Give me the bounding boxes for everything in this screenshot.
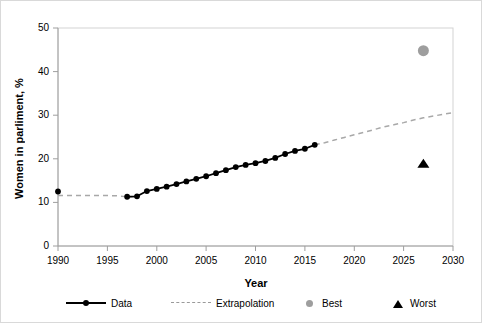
data-point: [124, 194, 130, 200]
legend-label-data: Data: [111, 298, 132, 309]
data-point: [243, 162, 249, 168]
y-tick-label-30: 30: [23, 110, 49, 120]
y-tick-label-0: 0: [23, 241, 49, 251]
data-point: [203, 173, 209, 179]
y-tick-label-40: 40: [23, 67, 49, 77]
x-tick-label-2000: 2000: [137, 256, 177, 266]
data-point: [312, 142, 318, 148]
data-point: [292, 148, 298, 154]
data-point: [272, 155, 278, 161]
data-point: [134, 193, 140, 199]
data-point: [233, 164, 239, 170]
x-tick-label-2010: 2010: [236, 256, 276, 266]
x-axis-ticks: [58, 246, 453, 251]
legend-label-best: Best: [322, 298, 342, 309]
x-tick-label-2005: 2005: [186, 256, 226, 266]
legend-entry-worst: Worst: [391, 292, 436, 314]
black-triangle-icon: [391, 297, 405, 309]
data-point: [55, 189, 61, 195]
best-marker: [418, 45, 429, 56]
x-tick-label-2020: 2020: [334, 256, 374, 266]
x-tick-label-2030: 2030: [433, 256, 473, 266]
data-point: [262, 158, 268, 164]
x-axis-title: Year: [58, 277, 454, 289]
legend-entry-best: Best: [303, 292, 342, 314]
y-axis-ticks: [53, 28, 58, 246]
legend-entry-data: Data: [66, 292, 132, 314]
data-point: [174, 181, 180, 187]
data-point: [164, 184, 170, 190]
x-tick-label-2015: 2015: [285, 256, 325, 266]
chart-legend: Data Extrapolation Best Worst: [58, 292, 454, 314]
data-point: [253, 160, 259, 166]
legend-entry-extrapolation: Extrapolation: [171, 292, 274, 314]
x-tick-label-2025: 2025: [384, 256, 424, 266]
plot-frame: [58, 28, 453, 246]
y-tick-label-20: 20: [23, 154, 49, 164]
data-point: [193, 176, 199, 182]
data-point: [183, 179, 189, 185]
chart-screenshot: Women in parliment, % Year 50 40 30 20 1…: [0, 0, 482, 323]
y-tick-label-10: 10: [23, 197, 49, 207]
data-point: [223, 167, 229, 173]
data-point: [154, 186, 160, 192]
x-tick-label-1990: 1990: [38, 256, 78, 266]
data-point: [213, 170, 219, 176]
data-point: [282, 151, 288, 157]
legend-label-worst: Worst: [410, 298, 436, 309]
chart-plot-area: [1, 1, 482, 323]
gray-circle-icon: [303, 297, 317, 309]
legend-label-extrapolation: Extrapolation: [216, 298, 274, 309]
x-tick-label-1995: 1995: [87, 256, 127, 266]
data-point: [144, 188, 150, 194]
data-line-icon: [66, 297, 106, 309]
y-tick-label-50: 50: [23, 23, 49, 33]
dashed-line-icon: [171, 297, 211, 309]
data-point: [302, 146, 308, 152]
